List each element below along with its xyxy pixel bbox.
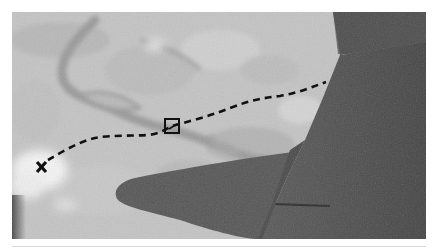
caption-divider: [12, 246, 426, 247]
aerial-photo: [12, 12, 426, 239]
aerial-photo-canvas: [12, 12, 426, 239]
photo-grain: [12, 12, 426, 239]
figure-frame: [0, 0, 436, 249]
